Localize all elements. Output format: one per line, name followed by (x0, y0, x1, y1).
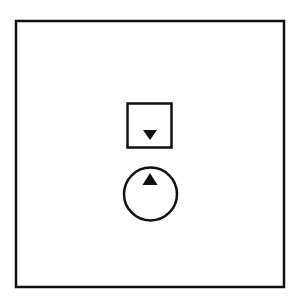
circle-button[interactable] (124, 168, 177, 221)
square-outline (128, 104, 172, 148)
diagram-canvas (0, 0, 301, 301)
square-button[interactable] (128, 104, 172, 148)
outer-frame (16, 21, 284, 287)
